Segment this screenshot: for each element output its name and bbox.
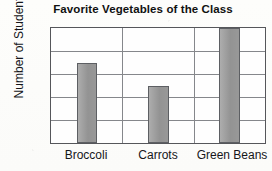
category-divider-1: [122, 28, 123, 143]
x-label-broccoli: Broccoli: [50, 148, 122, 162]
chart-title: Favorite Vegetables of the Class: [0, 3, 272, 15]
y-axis-title: Number of Students: [12, 0, 26, 110]
bar-green-beans: [219, 28, 240, 143]
bar-broccoli: [77, 63, 98, 144]
plot-area: [50, 27, 266, 144]
category-divider-2: [194, 28, 195, 143]
x-label-carrots: Carrots: [122, 148, 194, 162]
chart-page: Favorite Vegetables of the Class Number …: [0, 0, 272, 171]
bar-carrots: [148, 86, 169, 144]
x-label-green-beans: Green Beans: [194, 148, 270, 162]
